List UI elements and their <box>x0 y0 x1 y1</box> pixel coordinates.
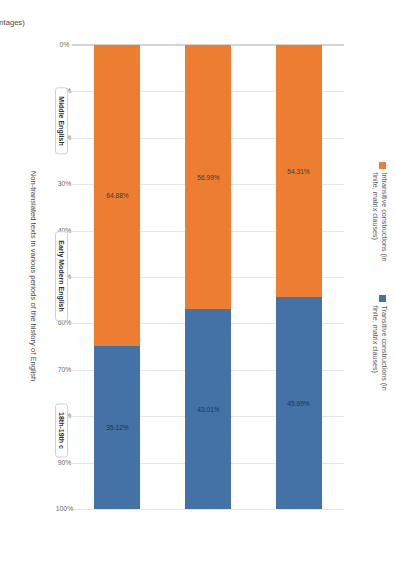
bar-segment-intransitive-1[interactable]: 56.99% <box>185 45 231 309</box>
legend-item-transitive[interactable]: Transitive constructions (in finite, mat… <box>371 295 388 402</box>
bar-segment-intransitive-0[interactable]: 54.31% <box>276 45 322 297</box>
chart-legend: Intransitive constructions (in finite, m… <box>371 0 388 563</box>
rotated-chart-canvas: Intransitive constructions (in finite, m… <box>0 0 396 563</box>
bar-segment-intransitive-2[interactable]: 64.88% <box>94 45 140 346</box>
bar-segment-transitive-0[interactable]: 45.69% <box>276 297 322 509</box>
gridline-100 <box>72 509 344 510</box>
stacked-bar-chart: Intransitive constructions (in finite, m… <box>0 0 396 563</box>
legend-label-transitive: Transitive constructions (in finite, mat… <box>371 306 388 402</box>
legend-swatch-intransitive <box>379 162 386 169</box>
legend-swatch-transitive <box>379 295 386 302</box>
legend-label-intransitive: Intransitive constructions (in finite, m… <box>371 173 388 269</box>
bar-label-intransitive-1: 56.99% <box>197 174 219 181</box>
bar-label-intransitive-2: 64.88% <box>106 192 128 199</box>
bar-segment-transitive-2[interactable]: 35.12% <box>94 346 140 509</box>
bar-label-transitive-2: 35.12% <box>106 424 128 431</box>
bar-rows: 54.31% 45.69% 56.99% 43.01% <box>72 45 344 509</box>
category-label-early-modern-english: Early Modern English <box>55 231 68 321</box>
category-axis-title: Non-translated texts in various periods … <box>29 44 38 508</box>
bar-label-transitive-0: 45.69% <box>287 399 309 406</box>
plot-area: 54.31% 45.69% 56.99% 43.01% <box>72 44 344 509</box>
category-label-18th-19th-c: 18th-19th c <box>55 403 68 458</box>
bar-label-intransitive-0: 54.31% <box>287 167 309 174</box>
bar-row-middle-english: 54.31% 45.69% <box>276 45 322 509</box>
category-axis-labels: Middle English Early Modern English 18th… <box>40 44 70 508</box>
legend-item-intransitive[interactable]: Intransitive constructions (in finite, m… <box>371 162 388 269</box>
bar-row-18th-19th-c: 64.88% 35.12% <box>94 45 140 509</box>
bar-label-transitive-1: 43.01% <box>197 406 219 413</box>
bar-row-early-modern-english: 56.99% 43.01% <box>185 45 231 509</box>
category-label-middle-english: Middle English <box>55 87 68 154</box>
value-axis-title: Transitive vs intransitive constructions… <box>0 18 72 27</box>
bar-segment-transitive-1[interactable]: 43.01% <box>185 309 231 509</box>
